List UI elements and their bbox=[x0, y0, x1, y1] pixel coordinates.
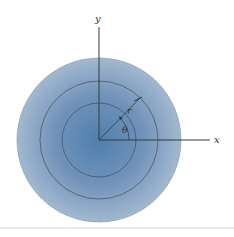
radius-label: r bbox=[127, 106, 132, 116]
x-axis-label: x bbox=[214, 134, 220, 145]
polar-disk-diagram: y x r θ bbox=[0, 0, 234, 237]
y-axis-label: y bbox=[94, 13, 101, 24]
angle-label: θ bbox=[122, 125, 128, 135]
